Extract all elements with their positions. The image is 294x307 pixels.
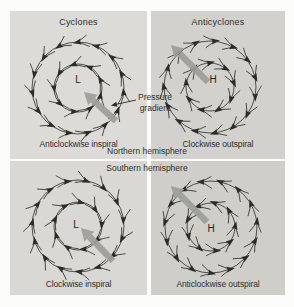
northern-hemisphere-label: Northern hemisphere: [0, 146, 294, 156]
wind-arrow: [53, 261, 73, 280]
quadrant-title: Anticyclones: [151, 17, 285, 27]
wind-arrow: [44, 212, 62, 232]
pressure-gradient-pointer-arrow: [107, 96, 139, 110]
wind-arrow: [28, 236, 42, 254]
quadrant-caption: Anticlockwise outspiral: [151, 279, 285, 289]
sh-anticyclone-spiral-graphic: H: [151, 161, 285, 295]
pointer-line: [111, 100, 136, 107]
wind-arrow: [85, 197, 104, 217]
quadrant-caption: Clockwise inspiral: [10, 279, 147, 289]
wind-arrow: [158, 210, 175, 229]
quadrant-sh-anticyclones: H Anticlockwise outspiral: [151, 161, 285, 295]
wind-arrow: [23, 216, 39, 235]
wind-arrow: [243, 197, 259, 216]
wind-arrow: [180, 257, 200, 276]
weather-systems-diagram: L Cyclones Anticlockwise inspiral H Anti…: [0, 0, 294, 307]
wind-arrow: [227, 220, 242, 238]
pressure-gradient-arrow: [171, 45, 208, 82]
quadrant-title: Cyclones: [10, 17, 147, 27]
wind-arrow: [244, 233, 263, 253]
wind-arrow: [37, 251, 56, 271]
pressure-center-letter: H: [209, 74, 216, 85]
nh-cyclone-spiral-graphic: L: [10, 11, 147, 159]
pressure-gradient-arrow: [81, 228, 113, 261]
wind-arrow: [56, 175, 73, 188]
quadrant-nh-anticyclones: H Anticyclones Clockwise outspiral: [151, 11, 285, 159]
wind-arrow: [96, 213, 110, 230]
wind-arrow: [52, 198, 71, 215]
wind-arrow: [196, 176, 212, 188]
southern-hemisphere-label: Southern hemisphere: [0, 163, 294, 173]
wind-arrow: [74, 171, 93, 188]
wind-arrow: [92, 176, 112, 196]
pressure-center-letter: H: [207, 223, 214, 234]
nh-anticyclone-spiral-graphic: H: [151, 11, 285, 159]
wind-arrow: [49, 229, 65, 247]
wind-arrow: [230, 182, 250, 202]
wind-arrow: [108, 189, 125, 208]
wind-arrow: [218, 234, 238, 253]
wind-arrow: [161, 230, 174, 247]
wind-arrow: [213, 175, 233, 193]
wind-arrow: [69, 193, 88, 209]
pressure-center-letter: L: [75, 74, 81, 85]
quadrant-nh-cyclones: L Cyclones Anticlockwise inspiral: [10, 11, 147, 159]
wind-arrow: [37, 182, 57, 200]
wind-arrow: [205, 244, 221, 257]
pressure-center-letter: L: [73, 219, 79, 230]
wind-arrow: [73, 266, 91, 280]
wind-arrow: [218, 262, 236, 277]
wind-arrow: [26, 196, 45, 216]
quadrant-sh-cyclones: L Clockwise inspiral: [10, 161, 147, 295]
wind-arrow: [167, 245, 185, 265]
sh-cyclone-spiral-graphic: L: [10, 161, 147, 295]
wind-arrow: [188, 236, 208, 256]
wind-arrow: [207, 196, 226, 213]
wind-arrow: [182, 224, 196, 242]
